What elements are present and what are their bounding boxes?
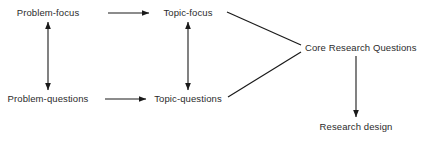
node-topic-questions: Topic-questions xyxy=(154,93,222,104)
node-problem-focus: Problem-focus xyxy=(17,7,80,18)
node-research-design: Research design xyxy=(320,121,393,132)
node-topic-focus: Topic-focus xyxy=(163,7,212,18)
node-problem-questions: Problem-questions xyxy=(8,93,89,104)
research-questions-diagram: Problem-focus Topic-focus Problem-questi… xyxy=(0,0,442,145)
edge-topic-questions-to-core xyxy=(228,52,301,97)
node-core-research-questions: Core Research Questions xyxy=(305,42,417,53)
edge-topic-focus-to-core xyxy=(227,12,301,45)
